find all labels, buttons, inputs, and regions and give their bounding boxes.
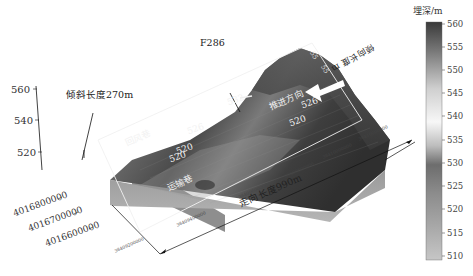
cb-tick-560: 560 [447, 20, 463, 29]
cb-tick-535: 535 [447, 136, 463, 145]
cb-tick-525: 525 [447, 182, 463, 191]
cb-tick-555: 555 [447, 43, 463, 52]
terrain-figure: 560 540 520 4016800000 4016700000 401660… [0, 0, 473, 276]
cb-tick-510: 510 [447, 252, 463, 261]
cb-tick-520: 520 [447, 205, 463, 214]
cb-tick-550: 550 [447, 66, 463, 75]
dip-length-label: 倾斜长度270m [66, 90, 133, 100]
z-axis [36, 86, 42, 170]
z-tick-520: 520 [17, 148, 36, 158]
cb-tick-545: 545 [447, 89, 463, 98]
cb-tick-540: 540 [447, 112, 463, 121]
z-tick-560: 560 [11, 85, 30, 95]
colorbar-title: 埋深/m [413, 7, 443, 16]
cb-tick-515: 515 [447, 229, 463, 238]
z-tick-540: 540 [14, 116, 33, 126]
dark-spot [195, 180, 215, 190]
strike-ext-right [385, 142, 415, 160]
cb-tick-530: 530 [447, 159, 463, 168]
colorbar [426, 22, 442, 260]
fault-label: F286 [200, 38, 225, 48]
